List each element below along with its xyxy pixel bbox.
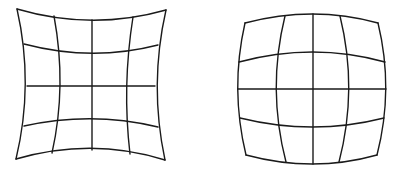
pincushion-bottom-edge (16, 148, 165, 160)
barrel-top-edge (245, 14, 378, 23)
barrel-row-line (239, 52, 385, 62)
barrel-grid (238, 14, 386, 164)
pincushion-left-edge (16, 9, 25, 159)
pincushion-col-line (52, 16, 60, 153)
barrel-row-line (240, 118, 384, 127)
pincushion-grid (16, 9, 166, 160)
pincushion-row-line (24, 44, 158, 53)
pincushion-top-edge (17, 9, 166, 20)
distortion-diagram (0, 0, 405, 176)
pincushion-row-line (24, 119, 158, 127)
barrel-bottom-edge (246, 155, 377, 164)
pincushion-right-edge (157, 10, 166, 160)
